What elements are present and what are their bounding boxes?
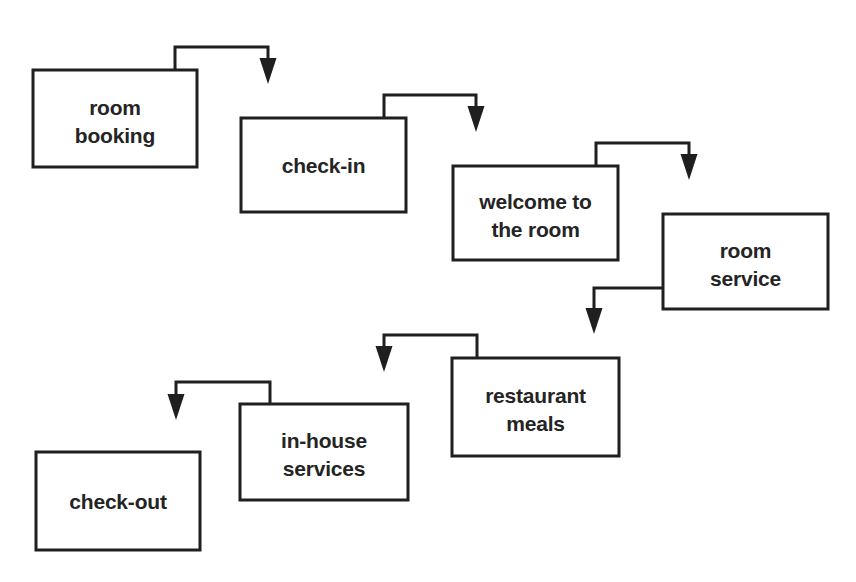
node-label-line2: services: [283, 457, 365, 480]
node-check-in[interactable]: check-in: [241, 118, 406, 212]
flowchart-svg: room booking check-in welcome to the roo…: [0, 0, 856, 582]
diagram-canvas: room booking check-in welcome to the roo…: [0, 0, 856, 582]
connector-line: [175, 47, 268, 70]
node-label-line1: welcome to: [478, 190, 591, 213]
node-check-out[interactable]: check-out: [36, 452, 200, 550]
node-layer: room booking check-in welcome to the roo…: [33, 70, 828, 550]
node-restaurant-meals[interactable]: restaurant meals: [452, 358, 619, 456]
node-label-line2: service: [710, 267, 781, 290]
node-room-booking[interactable]: room booking: [33, 70, 197, 167]
node-label-line1: check-out: [69, 490, 167, 513]
node-label-line1: in-house: [281, 429, 367, 452]
arrowhead-icon: [260, 58, 277, 84]
node-box[interactable]: [453, 166, 618, 260]
connector-line: [384, 95, 476, 118]
node-label-line1: room: [89, 96, 141, 119]
node-label-line1: check-in: [282, 154, 366, 177]
connector-line: [384, 335, 477, 358]
arrowhead-icon: [468, 106, 485, 132]
node-in-house-services[interactable]: in-house services: [240, 404, 408, 500]
node-box[interactable]: [33, 70, 197, 167]
arrowhead-icon: [681, 154, 698, 180]
node-label-line2: the room: [491, 218, 579, 241]
arrowhead-icon: [168, 394, 185, 420]
node-label-line2: meals: [506, 412, 565, 435]
arrowhead-icon: [586, 308, 603, 334]
arrowhead-icon: [376, 346, 393, 372]
node-box[interactable]: [663, 214, 828, 309]
connector-line: [176, 382, 270, 404]
node-label-line1: room: [720, 239, 772, 262]
node-welcome-to-the-room[interactable]: welcome to the room: [453, 166, 618, 260]
node-room-service[interactable]: room service: [663, 214, 828, 309]
connector-line: [594, 288, 663, 318]
node-label-line2: booking: [75, 124, 155, 147]
node-box[interactable]: [240, 404, 408, 500]
connector-room-service-to-restaurant-meals: [586, 288, 664, 334]
connector-line: [596, 143, 689, 166]
node-box[interactable]: [452, 358, 619, 456]
node-label-line1: restaurant: [485, 384, 586, 407]
